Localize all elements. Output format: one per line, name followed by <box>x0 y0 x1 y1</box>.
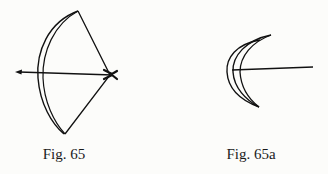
figure-caption: Fig. 65 <box>43 146 86 163</box>
arrowhead-icon <box>15 70 22 75</box>
figure-65: Fig. 65 <box>0 0 164 174</box>
figure-65a: Fig. 65a <box>164 0 328 174</box>
arrow-shaft <box>19 72 113 75</box>
crescent-outer <box>227 40 260 107</box>
bowstring <box>65 11 110 134</box>
figure-caption: Fig. 65a <box>226 146 275 163</box>
arrow-line <box>232 67 313 70</box>
